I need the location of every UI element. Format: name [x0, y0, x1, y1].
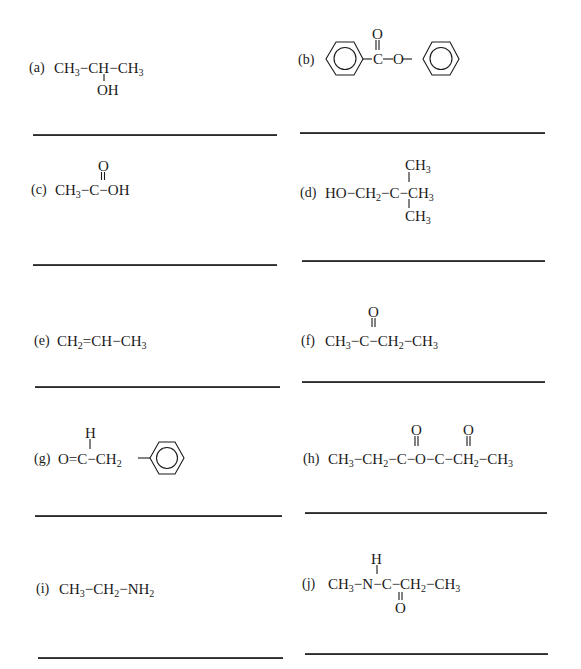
- formula-above: O: [368, 304, 379, 320]
- formula-above-2: O: [463, 422, 474, 438]
- answer-line-a[interactable]: [33, 134, 277, 136]
- item-label: (i): [36, 581, 49, 597]
- formula-above: H: [371, 551, 382, 567]
- bond-vertical: [0, 0, 1, 1]
- answer-line-h[interactable]: [305, 512, 547, 514]
- answer-line-e[interactable]: [35, 386, 280, 388]
- formula-below: O: [395, 600, 406, 616]
- formula-main: O=C−CH2: [58, 451, 122, 467]
- ester-oxygen: O: [393, 51, 404, 67]
- answer-line-j[interactable]: [305, 653, 548, 655]
- item-label: (b): [298, 52, 314, 68]
- formula-main: CH3−N−C−CH2−CH3: [328, 576, 460, 592]
- formula-above: O: [98, 158, 109, 174]
- answer-line-f[interactable]: [302, 381, 545, 383]
- formula-above: H: [85, 425, 96, 441]
- item-label: (d): [300, 185, 316, 201]
- formula-below: OH: [97, 82, 119, 98]
- answer-line-c[interactable]: [33, 264, 277, 266]
- item-label: (j): [302, 576, 315, 592]
- formula-main: CH3−CH−CH3: [54, 60, 143, 76]
- carbonyl-oxygen: O: [372, 26, 383, 42]
- item-label: (g): [34, 451, 50, 467]
- answer-line-i[interactable]: [38, 657, 283, 659]
- formula-below: CH3: [405, 208, 431, 224]
- formula-main: CH3−C−CH2−CH3: [325, 333, 438, 349]
- formula-main: HO−CH2−C−CH3: [325, 185, 434, 201]
- formula-main: CH3−CH2−C−O−C−CH2−CH3: [328, 451, 513, 467]
- carbon: C: [373, 51, 383, 67]
- item-label: (e): [34, 333, 50, 349]
- formula-main: CH2=CH−CH3: [57, 333, 146, 349]
- answer-line-g[interactable]: [35, 515, 282, 517]
- answer-line-b[interactable]: [300, 132, 545, 134]
- item-label: (f): [301, 333, 315, 349]
- item-label: (c): [31, 182, 47, 198]
- item-label: (a): [29, 60, 45, 76]
- formula-main: CH3−CH2−NH2: [59, 581, 154, 597]
- item-label: (h): [303, 451, 319, 467]
- formula-main: CH3−C−OH: [55, 182, 129, 198]
- formula-above-1: O: [411, 422, 422, 438]
- formula-above: CH3: [405, 157, 431, 173]
- answer-line-d[interactable]: [302, 260, 545, 262]
